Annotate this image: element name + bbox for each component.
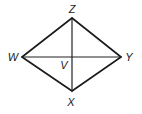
label-y: Y — [125, 51, 133, 63]
label-z: Z — [68, 3, 77, 15]
edge-wz — [22, 18, 72, 57]
edge-zy — [72, 18, 121, 57]
rhombus-diagram: Z Y X W V — [0, 0, 142, 114]
label-v: V — [60, 59, 69, 71]
label-x: X — [66, 96, 75, 108]
rhombus-diagonals — [22, 18, 121, 91]
edge-yx — [72, 57, 121, 91]
label-w: W — [8, 51, 20, 63]
